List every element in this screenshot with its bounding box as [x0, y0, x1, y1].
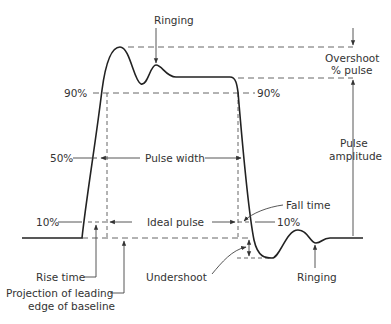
label-10-left: 10%	[36, 216, 59, 228]
pulse-amplitude-label: Pulse	[340, 137, 368, 149]
pulse-diagram: Ringing Overshoot % pulse Pulse amplitud…	[0, 0, 391, 324]
undershoot-label: Undershoot	[146, 271, 207, 283]
ideal-pulse-label: Ideal pulse	[147, 216, 204, 228]
label-50: 50%	[50, 152, 73, 164]
projection-label: Projection of leading	[6, 287, 113, 299]
ringing-top-label: Ringing	[154, 14, 194, 26]
projection-label-2: edge of baseline	[28, 300, 115, 312]
ringing-bottom-label: Ringing	[297, 271, 337, 283]
fall-time-label: Fall time	[286, 199, 330, 211]
pulse-width-label: Pulse width	[145, 152, 205, 164]
overshoot-percent-label: % pulse	[331, 64, 372, 76]
rise-time-label: Rise time	[36, 271, 85, 283]
undershoot-pointer	[212, 247, 246, 274]
overshoot-label: Overshoot	[325, 52, 379, 64]
label-90-right: 90%	[257, 87, 280, 99]
label-10-right: 10%	[277, 216, 300, 228]
reference-lines	[82, 47, 353, 258]
label-90-left: 90%	[64, 87, 87, 99]
pulse-amplitude-label-2: amplitude	[329, 150, 382, 162]
